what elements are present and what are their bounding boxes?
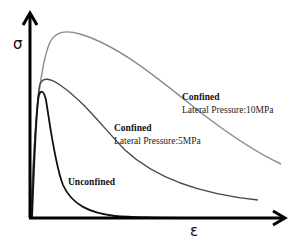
- label-confined-5mpa-title: Confined: [114, 124, 151, 134]
- curve-unconfined: [32, 92, 200, 218]
- y-axis-label: σ: [13, 37, 23, 52]
- curve-confined-10mpa: [31, 32, 281, 218]
- x-axis-label: ε: [190, 224, 198, 239]
- curve-confined-5mpa: [31, 79, 258, 218]
- stress-strain-diagram: σ ε Confined Lateral Pressure:10MPa Conf…: [0, 0, 299, 245]
- label-unconfined: Unconfined: [68, 178, 115, 188]
- label-confined-10mpa-title: Confined: [182, 93, 219, 103]
- label-confined-10mpa-subtitle: Lateral Pressure:10MPa: [182, 106, 274, 116]
- label-confined-5mpa-subtitle: Lateral Pressure:5MPa: [114, 137, 201, 147]
